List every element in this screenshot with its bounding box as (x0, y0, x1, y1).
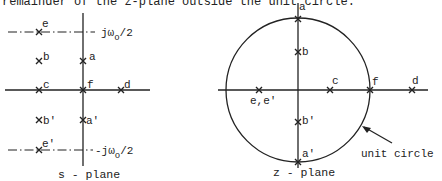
s-point-f: f (80, 79, 94, 93)
s-plane: jωo/2 -jωo/2 e b a c f d b' (5, 13, 150, 181)
s-point-e-prime: e' (36, 138, 55, 153)
svg-text:e: e (42, 18, 49, 30)
svg-text:a': a' (86, 115, 99, 127)
svg-text:e,e': e,e' (250, 95, 276, 107)
s-point-b-prime: b' (36, 115, 56, 127)
svg-text:c: c (43, 79, 50, 91)
x-marker-icon (36, 117, 42, 123)
svg-text:a: a (89, 51, 96, 63)
svg-text:b: b (43, 51, 50, 63)
arrowhead-icon (362, 126, 371, 133)
s-point-d: d (118, 79, 131, 93)
svg-text:b': b' (302, 115, 315, 127)
z-plane: a b e,e' c f d b' a' (218, 1, 434, 179)
svg-text:b': b' (43, 115, 56, 127)
x-marker-icon (36, 58, 42, 64)
svg-text:d: d (412, 75, 419, 87)
svg-text:c: c (332, 75, 339, 87)
z-point-b: b (295, 46, 309, 58)
upper-boundary-label: jωo/2 (101, 27, 133, 43)
svg-text:a': a' (302, 148, 315, 160)
svg-text:f: f (372, 76, 379, 88)
s-point-c: c (36, 79, 50, 93)
unit-circle-label: unit circle (361, 148, 434, 160)
s-to-z-plane-mapping-diagram: remainder of the z-plane outside the uni… (0, 0, 442, 181)
z-plane-caption: z - plane (273, 166, 335, 179)
svg-text:b: b (302, 46, 309, 58)
svg-text:e': e' (42, 138, 55, 150)
s-plane-caption: s - plane (58, 168, 120, 181)
svg-text:f: f (87, 79, 94, 91)
svg-text:d: d (124, 79, 131, 91)
lower-boundary-label: -jωo/2 (95, 145, 133, 161)
svg-text:a: a (299, 1, 306, 13)
unit-circle-pointer (362, 126, 392, 143)
s-point-b: b (36, 51, 50, 64)
